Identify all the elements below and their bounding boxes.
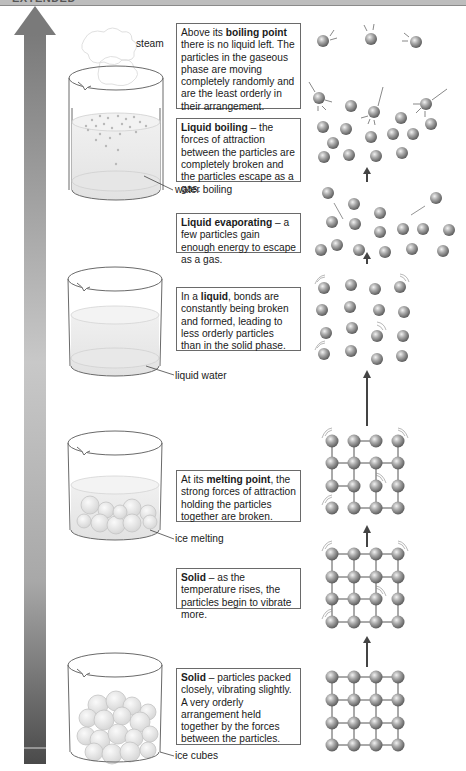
particles-gas-icon	[309, 24, 447, 163]
box-liquid: In a liquid, bonds are constantly being …	[176, 287, 301, 351]
box-liquid-bold: liquid	[201, 291, 228, 302]
particles-liquid-icon	[315, 274, 410, 365]
box-solid: Solid – particles packed closely, vibrat…	[176, 668, 301, 745]
box-solid-vibrating-bold: Solid	[181, 572, 206, 583]
particles-melting-icon	[322, 428, 408, 515]
label-liquid-water: liquid water	[175, 370, 227, 381]
particles-solid-vibrating-icon	[322, 541, 408, 629]
beaker-ice-icon	[68, 653, 174, 764]
box-solid-vibrating: Solid – as the temperature rises, the pa…	[176, 568, 301, 609]
particles-solid-icon	[326, 671, 405, 752]
box-liquid-pre: In a	[181, 291, 201, 302]
beaker-melting-icon	[68, 431, 174, 540]
beaker-liquid-icon	[68, 267, 174, 376]
box-melting-bold: melting point	[206, 474, 270, 485]
box-evaporating-bold: Liquid evaporating	[181, 217, 272, 228]
box-solid-bold: Solid	[181, 672, 206, 683]
box-gas-bold: boiling point	[226, 27, 287, 38]
label-ice-cubes: ice cubes	[175, 750, 218, 761]
box-gas-pre: Above its	[181, 27, 226, 38]
box-melting-pre: At its	[181, 474, 206, 485]
transition-arrow-icon	[363, 167, 371, 667]
label-ice-melting: ice melting	[175, 533, 224, 544]
box-boiling-bold: Liquid boiling	[181, 122, 248, 133]
box-gas-post: there is no liquid left. The particles i…	[181, 39, 295, 111]
temperature-arrow-icon	[14, 6, 56, 764]
box-evaporating: Liquid evaporating – a few particles gai…	[176, 213, 301, 253]
steam-cloud-icon	[82, 28, 138, 86]
box-boiling: Liquid boiling – the forces of attractio…	[176, 118, 301, 182]
box-gas: Above its boiling point there is no liqu…	[176, 23, 301, 109]
particles-evaporating-icon	[315, 187, 455, 258]
label-steam: steam	[136, 38, 164, 49]
diagram-canvas	[0, 0, 466, 771]
box-melting: At its melting point, the strong forces …	[176, 470, 301, 522]
